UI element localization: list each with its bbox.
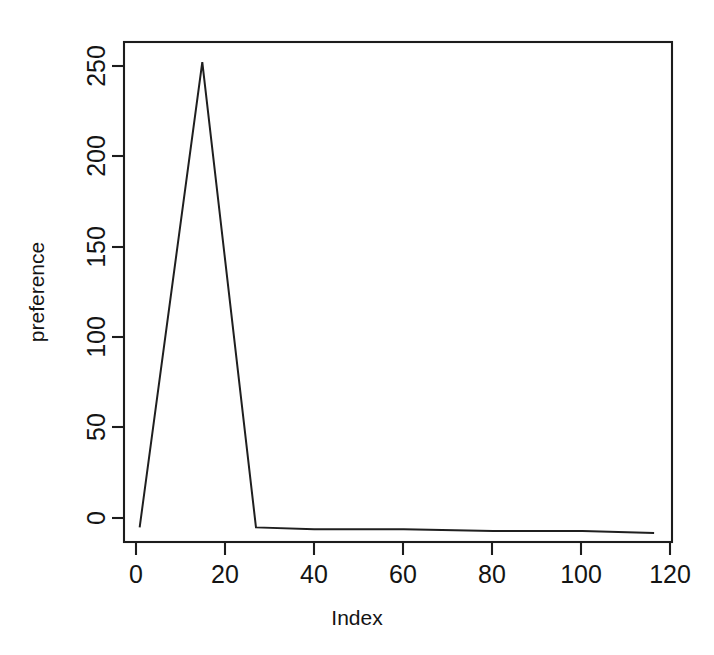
y-tick-label-50: 50	[82, 413, 110, 441]
x-tick-label-60: 60	[389, 560, 417, 588]
x-tick-label-0: 0	[129, 560, 143, 588]
x-tick-label-20: 20	[211, 560, 239, 588]
y-tick-label-100: 100	[82, 316, 110, 358]
y-tick-label-200: 200	[82, 135, 110, 177]
line-chart-canvas: 0 50 100 150 200 250 0 20 40 60 80 100 1…	[0, 0, 714, 655]
y-axis-title: preference	[25, 242, 48, 342]
y-tick-label-150: 150	[82, 226, 110, 268]
x-axis-title: Index	[331, 606, 383, 629]
x-tick-label-120: 120	[649, 560, 691, 588]
x-tick-label-100: 100	[560, 560, 602, 588]
x-tick-label-40: 40	[300, 560, 328, 588]
y-tick-label-250: 250	[82, 45, 110, 87]
x-tick-label-80: 80	[478, 560, 506, 588]
y-tick-label-0: 0	[82, 511, 110, 525]
chart-figure: 0 50 100 150 200 250 0 20 40 60 80 100 1…	[0, 0, 714, 655]
